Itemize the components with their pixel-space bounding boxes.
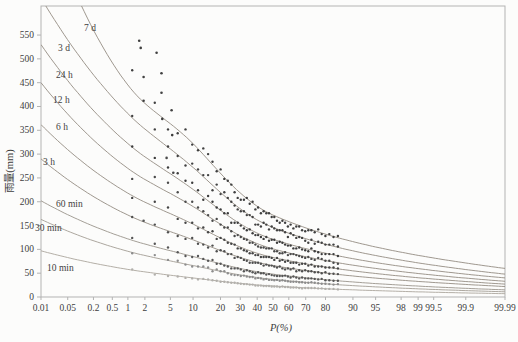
dot-12h — [243, 238, 245, 240]
dot-12h — [257, 245, 259, 247]
dot-24h — [260, 236, 262, 238]
dot-6h — [268, 256, 270, 258]
dot-7d — [307, 229, 309, 231]
dot-10min — [237, 282, 239, 284]
dot-7d — [262, 210, 264, 212]
curve-60min — [41, 201, 505, 290]
x-tick-label: 80 — [321, 303, 331, 313]
dot-10min — [321, 287, 323, 289]
dot-3d — [324, 243, 326, 245]
dot-60min — [230, 267, 232, 269]
dot-10min — [268, 285, 270, 287]
dot-3d — [191, 162, 193, 164]
dot-60min — [287, 275, 289, 277]
dot-3d — [292, 234, 294, 236]
dot-10min — [276, 285, 278, 287]
outlier-dot-24h — [142, 100, 145, 103]
dot-12h — [271, 247, 273, 249]
dot-7d — [265, 212, 267, 214]
dot-7d — [287, 225, 289, 227]
dot-10min — [243, 283, 245, 285]
dot-30min — [276, 279, 278, 281]
dot-24h — [257, 234, 259, 236]
dot-24h — [289, 244, 291, 246]
dot-24h — [167, 166, 169, 168]
x-tick-label: 20 — [216, 303, 226, 313]
dot-6h — [230, 243, 232, 245]
dot-24h — [317, 251, 319, 253]
dot-10min — [260, 284, 262, 286]
outlier-dot-3d — [160, 91, 163, 94]
dot-12h — [289, 253, 291, 255]
dot-3d — [233, 204, 235, 206]
x-tick-label: 0.01 — [33, 303, 50, 313]
x-tick-label: 99.5 — [425, 303, 442, 313]
dot-3d — [216, 183, 218, 185]
dot-3h — [219, 249, 221, 251]
y-tick-label: 450 — [20, 78, 35, 88]
dot-7d — [321, 233, 323, 235]
dot-7d — [314, 231, 316, 233]
dot-60min — [332, 280, 334, 282]
dot-60min — [219, 263, 221, 265]
dot-12h — [251, 242, 253, 244]
dot-6h — [257, 254, 259, 256]
dot-12h — [276, 250, 278, 252]
dot-3d — [328, 243, 330, 245]
dot-60min — [337, 280, 339, 282]
dot-6h — [301, 263, 303, 265]
dot-30min — [301, 281, 303, 283]
dot-60min — [271, 274, 273, 276]
dot-24h — [310, 247, 312, 249]
dot-24h — [230, 222, 232, 224]
dot-24h — [337, 255, 339, 257]
dot-10min — [271, 285, 273, 287]
dot-30min — [328, 283, 330, 285]
dot-10min — [251, 283, 253, 285]
dot-60min — [279, 275, 281, 277]
dot-12h — [279, 252, 281, 254]
dot-3h — [321, 272, 323, 274]
dot-30min — [284, 280, 286, 282]
dot-12h — [328, 260, 330, 262]
y-tick-label: 150 — [20, 221, 35, 231]
dot-60min — [251, 271, 253, 273]
dot-60min — [249, 270, 251, 272]
dot-24h — [131, 145, 133, 147]
dot-3d — [310, 239, 312, 241]
dot-30min — [227, 272, 229, 274]
dot-7d — [197, 149, 199, 151]
dot-10min — [310, 287, 312, 289]
dot-30min — [246, 275, 248, 277]
x-tick-label: 99.99 — [494, 303, 516, 313]
x-tick-label: 60 — [284, 303, 294, 313]
dot-24h — [332, 253, 334, 255]
dot-3d — [265, 223, 267, 225]
dot-12h — [240, 236, 242, 238]
dot-24h — [314, 250, 316, 252]
dot-60min — [317, 278, 319, 280]
dot-60min — [233, 267, 235, 269]
outlier-dot-6h — [172, 171, 175, 174]
dot-3h — [197, 243, 199, 245]
dot-60min — [131, 237, 133, 239]
dot-30min — [310, 281, 312, 283]
dot-30min — [292, 281, 294, 283]
dot-10min — [314, 287, 316, 289]
dot-3d — [154, 128, 156, 130]
dot-30min — [332, 283, 334, 285]
dot-24h — [328, 253, 330, 255]
y-tick-label: 250 — [20, 173, 35, 183]
dot-30min — [230, 273, 232, 275]
dot-6h — [298, 263, 300, 265]
dot-30min — [279, 280, 281, 282]
dot-10min — [301, 287, 303, 289]
dot-30min — [260, 277, 262, 279]
dot-30min — [249, 276, 251, 278]
dot-60min — [307, 277, 309, 279]
dot-60min — [281, 275, 283, 277]
dot-10min — [292, 286, 294, 288]
dot-3h — [154, 223, 156, 225]
dot-12h — [191, 201, 193, 203]
dot-30min — [287, 280, 289, 282]
